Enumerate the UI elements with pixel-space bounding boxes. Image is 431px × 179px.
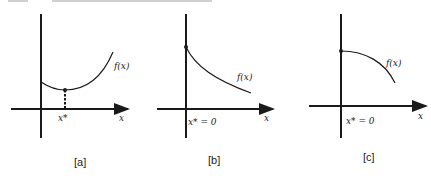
curve-label: f(x) xyxy=(236,72,253,82)
svg-text:x: x xyxy=(418,111,423,121)
svg-text:x* = 0: x* = 0 xyxy=(188,117,217,127)
curve-f xyxy=(186,47,251,93)
curve-label: f(x) xyxy=(113,61,130,71)
svg-text:f(x): f(x) xyxy=(236,72,253,82)
svg-text:x*: x* xyxy=(58,113,68,123)
panel-caption: [c] xyxy=(363,151,375,163)
figure: f(x) x* x [a] f(x) x* = 0 x [b] f(x) x* … xyxy=(0,0,431,179)
svg-text:f(x): f(x) xyxy=(385,58,402,68)
x-axis-label: x xyxy=(119,113,124,123)
optimum-label: x* = 0 xyxy=(188,117,217,127)
optimum-label: x* = 0 xyxy=(346,116,375,126)
panel-caption: [a] xyxy=(74,156,86,168)
svg-text:[b]: [b] xyxy=(208,154,220,166)
panel-a: f(x) x* x [a] xyxy=(11,14,130,168)
svg-text:x: x xyxy=(264,113,269,123)
svg-text:f(x): f(x) xyxy=(113,61,130,71)
curve-label: f(x) xyxy=(385,58,402,68)
optimum-label: x* xyxy=(58,113,68,123)
x-axis-label: x xyxy=(418,111,423,121)
svg-text:x: x xyxy=(119,113,124,123)
svg-text:[a]: [a] xyxy=(74,156,86,168)
svg-text:[c]: [c] xyxy=(363,151,375,163)
svg-text:x* = 0: x* = 0 xyxy=(346,116,375,126)
boundary-point xyxy=(339,49,343,53)
boundary-point xyxy=(184,45,188,49)
panel-caption: [b] xyxy=(208,154,220,166)
x-axis-label: x xyxy=(264,113,269,123)
curve-f xyxy=(41,52,113,90)
panel-c: f(x) x* = 0 x [c] xyxy=(309,14,426,163)
panel-b: f(x) x* = 0 x [b] xyxy=(157,14,273,166)
